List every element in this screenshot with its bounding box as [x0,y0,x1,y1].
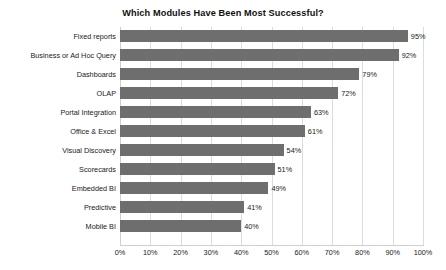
bar-value-label: 92% [399,46,417,65]
bar [120,144,284,156]
bar-value-label: 54% [284,141,302,160]
bar [120,87,338,99]
category-label: Portal Integration [60,103,116,122]
bar-row: Scorecards51% [120,160,423,179]
bar-value-label: 63% [311,103,329,122]
bar-row: Portal Integration63% [120,103,423,122]
x-tick-label: 100% [403,248,443,257]
bar-value-label: 79% [359,65,377,84]
category-label: Office & Excel [70,122,116,141]
bar-row: Fixed reports95% [120,27,423,46]
bar-row: OLAP72% [120,84,423,103]
bar-value-label: 61% [305,122,323,141]
bar-value-label: 51% [275,160,293,179]
bar [120,106,311,118]
category-label: Dashboards [77,65,116,84]
bar-row: Visual Discovery54% [120,141,423,160]
category-label: Predictive [84,198,116,217]
category-label: Scorecards [79,160,116,179]
category-label: Fixed reports [73,27,116,46]
category-label: Visual Discovery [62,141,116,160]
bar-value-label: 95% [408,27,426,46]
bar [120,30,408,42]
bar [120,220,241,232]
bar-row: Dashboards79% [120,65,423,84]
bar [120,125,305,137]
bar-chart: Which Modules Have Been Most Successful?… [0,0,446,270]
chart-title: Which Modules Have Been Most Successful? [0,8,446,18]
bar-value-label: 40% [241,217,259,236]
bar [120,68,359,80]
bar-row: Predictive41% [120,198,423,217]
bar-row: Embedded BI49% [120,179,423,198]
bar-row: Mobile BI40% [120,217,423,236]
category-label: OLAP [97,84,116,103]
bar-row: Business or Ad Hoc Query92% [120,46,423,65]
gridline [423,27,424,245]
bar [120,182,268,194]
bar [120,201,244,213]
bar [120,163,275,175]
plot-area: Fixed reports95%Business or Ad Hoc Query… [120,27,423,245]
bar [120,49,399,61]
category-label: Mobile BI [86,217,116,236]
bar-value-label: 72% [338,84,356,103]
bar-value-label: 49% [268,179,286,198]
bar-row: Office & Excel61% [120,122,423,141]
category-label: Business or Ad Hoc Query [30,46,116,65]
x-axis-line [120,245,424,246]
category-label: Embedded BI [72,179,116,198]
bar-value-label: 41% [244,198,262,217]
